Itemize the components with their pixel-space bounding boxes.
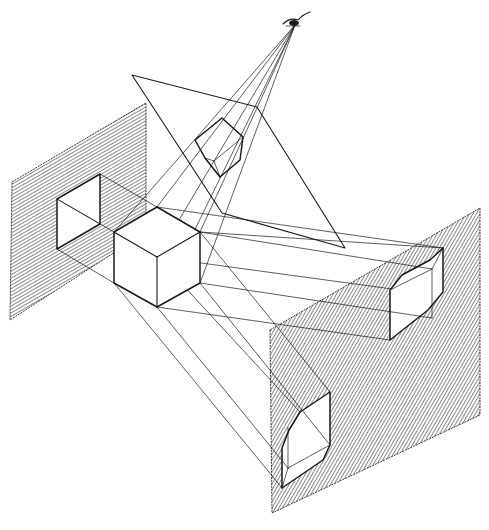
eye-icon — [283, 12, 310, 26]
right-plane — [270, 208, 480, 513]
projection-diagram: Projection of a cube onto three planes o… — [0, 0, 489, 530]
diagram-canvas — [0, 0, 489, 530]
